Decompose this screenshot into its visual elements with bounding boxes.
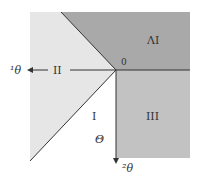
origin-label: 0	[121, 58, 127, 67]
axis-left-label: ¹θ	[10, 65, 21, 76]
phase-diagram: 0 II ΛI III I Θ ¹θ ²θ	[0, 0, 200, 185]
region-i-label: I	[92, 111, 96, 122]
region-iii-label: III	[146, 111, 159, 122]
diagram-canvas	[0, 0, 200, 185]
axis-down-arrowhead	[113, 158, 119, 164]
axis-down-label: ²θ	[122, 163, 133, 174]
region-iv-label: ΛI	[147, 35, 159, 46]
region-ii-label: II	[53, 65, 62, 76]
theta-label: Θ	[95, 134, 104, 145]
